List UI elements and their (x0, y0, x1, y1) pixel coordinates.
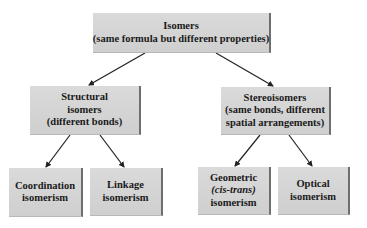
node-title: Coordination (15, 180, 75, 193)
node-title-cont: isomerism (290, 191, 336, 204)
node-subtitle: (same formula but different properties) (93, 33, 269, 46)
node-subtitle-cont: spatial arrangements) (226, 117, 324, 130)
node-isomers: Isomers (same formula but different prop… (93, 13, 271, 53)
node-subtitle: (same bonds, different (225, 104, 325, 117)
arrow-structural-to-linkage (100, 135, 124, 167)
arrow-stereo-to-geometric (235, 135, 260, 166)
node-qualifier: (cis-trans) (211, 184, 255, 197)
arrow-root-to-structural (89, 53, 145, 85)
arrow-stereo-to-optical (289, 135, 312, 166)
node-subtitle: (different bonds) (47, 116, 122, 129)
node-title-cont: isomerism (22, 192, 68, 205)
node-title-cont: isomerism (210, 197, 256, 210)
arrow-structural-to-coordination (46, 135, 70, 167)
node-title: Optical (296, 178, 329, 191)
node-optical-isomerism: Optical isomerism (278, 167, 350, 215)
node-stereoisomers: Stereoisomers (same bonds, different spa… (221, 87, 331, 135)
node-title-cont: isomers (67, 104, 101, 117)
node-coordination-isomerism: Coordination isomerism (9, 168, 83, 217)
node-title: Structural (61, 91, 108, 104)
node-title: Geometric (210, 172, 257, 185)
node-linkage-isomerism: Linkage isomerism (90, 168, 163, 216)
node-title-cont: isomerism (102, 192, 148, 205)
node-title: Isomers (163, 20, 199, 33)
node-title: Stereoisomers (244, 92, 307, 105)
node-title: Linkage (107, 179, 144, 192)
node-geometric-isomerism: Geometric (cis-trans) isomerism (198, 167, 271, 215)
node-structural-isomers: Structural isomers (different bonds) (30, 86, 141, 135)
arrow-root-to-stereo (216, 53, 273, 86)
